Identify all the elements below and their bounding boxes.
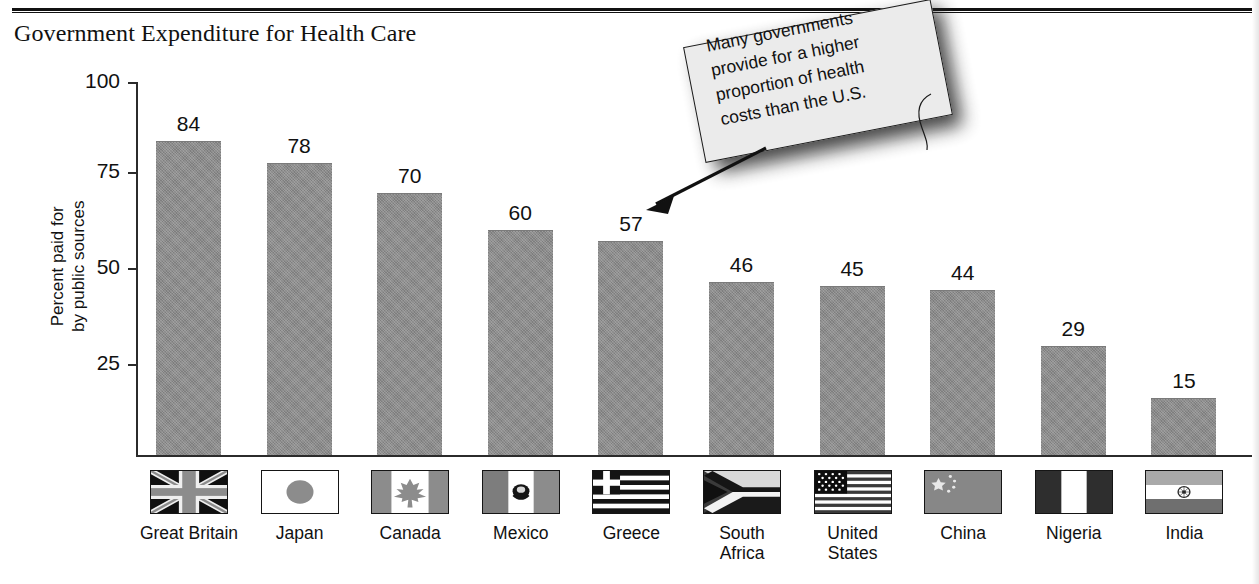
flag-united-kingdom-icon (150, 470, 228, 514)
bar-nigeria (1041, 346, 1106, 455)
country-label-india: India (1118, 524, 1250, 544)
y-tick-label-100: 100 (60, 69, 120, 93)
y-tick-75 (128, 172, 137, 174)
callout-arrow-icon (600, 140, 780, 230)
bar-value-india: 15 (1151, 369, 1216, 393)
flag-south-africa-icon (703, 470, 781, 514)
country-label-line-1: India (1118, 524, 1250, 544)
y-axis-title-line-1: Percent paid for (47, 146, 68, 386)
bar-value-china: 44 (930, 261, 995, 285)
bar-great-britain (156, 141, 221, 455)
bar-canada (377, 193, 442, 455)
chart-page: Government Expenditure for Health Care 1… (0, 0, 1259, 584)
country-label-line-2: States (787, 544, 919, 564)
bar-value-united-states: 45 (820, 257, 885, 281)
page-edge-shadow (1252, 0, 1259, 584)
bar-value-great-britain: 84 (156, 112, 221, 136)
flag-canada-icon (371, 470, 449, 514)
y-tick-50 (128, 268, 137, 270)
bar-value-canada: 70 (377, 164, 442, 188)
flag-nigeria-icon (1035, 470, 1113, 514)
y-axis-title-line-2: by public sources (68, 146, 89, 386)
plot-area: 100 75 50 25 Percent paid for by public … (0, 0, 1259, 584)
bar-china (930, 290, 995, 455)
flag-greece-icon (592, 470, 670, 514)
flag-china-icon (924, 470, 1002, 514)
bar-india (1151, 398, 1216, 455)
bar-greece (598, 241, 663, 455)
y-tick-100 (128, 82, 137, 84)
bar-value-japan: 78 (267, 134, 332, 158)
bar-value-mexico: 60 (488, 201, 553, 225)
y-tick-25 (128, 364, 137, 366)
bar-mexico (488, 230, 553, 455)
bar-value-nigeria: 29 (1041, 317, 1106, 341)
bar-united-states (820, 286, 885, 455)
y-axis-title: Percent paid for by public sources (47, 146, 90, 386)
flag-mexico-icon (482, 470, 560, 514)
x-axis-baseline (136, 455, 1252, 457)
flag-japan-icon (261, 470, 339, 514)
flag-united-states-icon (814, 470, 892, 514)
bar-south-africa (709, 282, 774, 455)
bar-japan (267, 163, 332, 455)
bar-value-south-africa: 46 (709, 253, 774, 277)
flag-india-icon (1145, 470, 1223, 514)
